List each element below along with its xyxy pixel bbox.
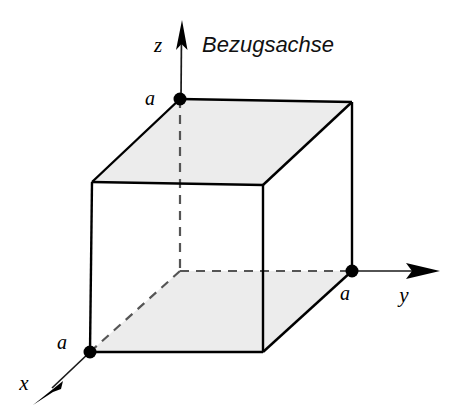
vertex-dot-bottom-back-right [346, 265, 359, 278]
x-axis-label: x [18, 371, 29, 395]
x-axis-shaft [52, 352, 90, 388]
edge-front-left-vertical [90, 182, 92, 352]
vertex-dot-bottom-front-left [84, 346, 97, 359]
reference-axis-caption: Bezugsachse [202, 32, 334, 57]
top-face-shading [92, 99, 352, 185]
cube-coordinate-diagram: z y x Bezugsachse a a a [0, 0, 470, 413]
dimension-label-y: a [340, 282, 350, 304]
vertex-dot-top-back-left [174, 93, 187, 106]
figure-root: z y x Bezugsachse a a a [0, 0, 470, 413]
y-axis-label: y [397, 283, 409, 307]
dimension-label-z: a [145, 87, 155, 109]
dimension-label-x: a [57, 331, 67, 353]
z-axis-label: z [153, 33, 162, 57]
x-axis-arrowhead [33, 381, 63, 405]
bottom-face-shading [90, 271, 352, 352]
